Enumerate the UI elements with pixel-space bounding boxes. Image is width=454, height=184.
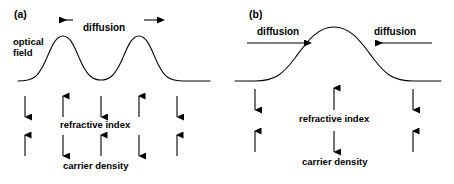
panel-a: (a) diffusion optical field (0, 0, 227, 184)
panel-a-carrier-density-arrows (0, 0, 227, 184)
panel-a-carrier-density-label: carrier density (63, 160, 128, 171)
panel-b: (b) diffusion diffusion (227, 0, 454, 184)
figure-root: (a) diffusion optical field (0, 0, 454, 184)
panel-b-carrier-density-label: carrier density (302, 156, 367, 167)
